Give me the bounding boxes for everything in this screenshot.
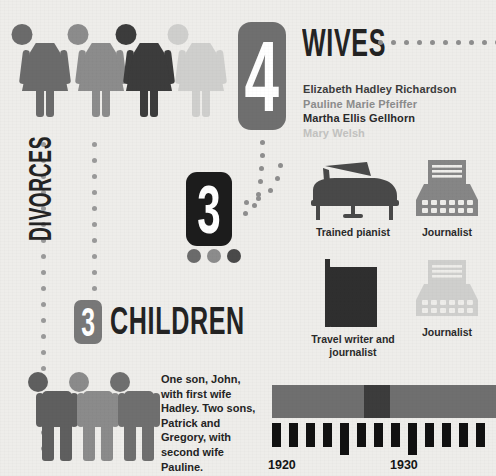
divorces-count-badge: 3 [186, 172, 232, 246]
profession-item-trained-pianist: Trained pianist [305, 160, 401, 226]
timeline-tick [289, 423, 298, 447]
timeline-tick [476, 423, 485, 447]
children-note-text: One son, John, with first wife Hadley. T… [161, 372, 265, 474]
figure-leg-left [192, 87, 200, 117]
timeline-bar-marriage-2 [390, 385, 496, 418]
wives-heading-label: WIVES [302, 24, 386, 62]
divorce-dot-2 [207, 249, 221, 263]
profession-caption: Travel writer and journalist [305, 333, 401, 359]
timeline-tick-major [408, 423, 417, 455]
connector-dot [260, 140, 265, 145]
timeline-tick [357, 423, 366, 447]
figure-head [116, 24, 137, 45]
figure-leg-right [142, 424, 154, 461]
wife-name-4: Mary Welsh [303, 126, 493, 141]
grand-piano-icon [305, 160, 401, 222]
figure-torso [42, 391, 72, 427]
divorces-dot-markers [187, 249, 241, 263]
figure-leg-right [202, 87, 210, 117]
timeline-tick [374, 423, 383, 447]
figure-leg-right [46, 87, 54, 117]
figure-torso [124, 391, 154, 427]
figure-head [68, 24, 89, 45]
divorces-count-value: 3 [197, 175, 220, 243]
profession-caption: Journalist [408, 326, 486, 339]
timeline-tick [425, 423, 434, 447]
wife-name-2: Pauline Marie Pfeiffer [303, 97, 493, 112]
figure-leg-left [140, 87, 148, 117]
profession-item-travel-writer: Travel writer and journalist [305, 257, 401, 333]
children-heading-label: CHILDREN [110, 302, 245, 340]
figure-head [69, 372, 89, 392]
profession-caption: Trained pianist [305, 226, 401, 239]
wives-count-value: 4 [245, 26, 279, 126]
timeline-tick [323, 423, 332, 447]
children-heading: CHILDREN [110, 302, 314, 340]
figure-head [12, 24, 33, 45]
figure-leg-left [42, 424, 54, 461]
timeline-year-label-1920: 1920 [268, 458, 296, 472]
figure-leg-left [92, 87, 100, 117]
timeline-bar-overlap [364, 385, 390, 418]
profession-caption: Journalist [408, 226, 486, 239]
connector-dot [260, 153, 265, 158]
connector-dot [275, 176, 280, 181]
connector-dot [259, 166, 264, 171]
children-count-badge: 3 [74, 300, 102, 344]
profession-item-journalist-2: Journalist [408, 260, 486, 326]
wives-count-badge: 4 [238, 22, 286, 130]
figure-leg-left [36, 87, 44, 117]
figure-leg-left [124, 424, 136, 461]
figure-leg-right [150, 87, 158, 117]
timeline-tick-major [340, 423, 349, 455]
book-icon [305, 257, 401, 329]
timeline-tick [442, 423, 451, 447]
figure-head [28, 372, 48, 392]
timeline-tick-group [272, 423, 496, 455]
figure-leg-right [60, 424, 72, 461]
connector-dot [244, 200, 249, 205]
connector-dot [256, 196, 261, 201]
divorces-heading: DIVORCES [24, 156, 56, 276]
timeline-tick [272, 423, 281, 447]
children-count-value: 3 [81, 302, 95, 342]
timeline-bar-marriage-1 [272, 385, 364, 418]
timeline-tick [459, 423, 468, 447]
infographic-canvas: 4 WIVES Elizabeth Hadley Richardson Paul… [0, 0, 496, 476]
wives-trailing-dots [378, 40, 496, 45]
timeline-year-label-1930: 1930 [390, 458, 418, 472]
figure-leg-left [83, 424, 95, 461]
profession-item-journalist-1: Journalist [408, 160, 486, 226]
connector-dot [258, 179, 263, 184]
connector-dot [252, 203, 257, 208]
wife-name-1: Elizabeth Hadley Richardson [303, 82, 493, 97]
wife-name-3: Martha Ellis Gellhorn [303, 111, 493, 126]
wives-name-list: Elizabeth Hadley Richardson Pauline Mari… [303, 82, 493, 140]
figure-head [110, 372, 130, 392]
timeline-tick [306, 423, 315, 447]
figure-head [168, 24, 189, 45]
connector-dot [268, 188, 273, 193]
typewriter-icon [408, 160, 486, 222]
figure-leg-right [102, 87, 110, 117]
divorces-heading-label: DIVORCES [24, 136, 56, 241]
marriage-timeline-chart: 1920 1930 [272, 385, 496, 476]
typewriter-icon [408, 260, 486, 322]
timeline-tick [391, 423, 400, 447]
divorce-dot-3 [227, 249, 241, 263]
connector-dot [278, 163, 283, 168]
figure-leg-right [101, 424, 113, 461]
figure-torso [83, 391, 113, 427]
divorce-dot-1 [187, 249, 201, 263]
connector-dot [243, 211, 248, 216]
